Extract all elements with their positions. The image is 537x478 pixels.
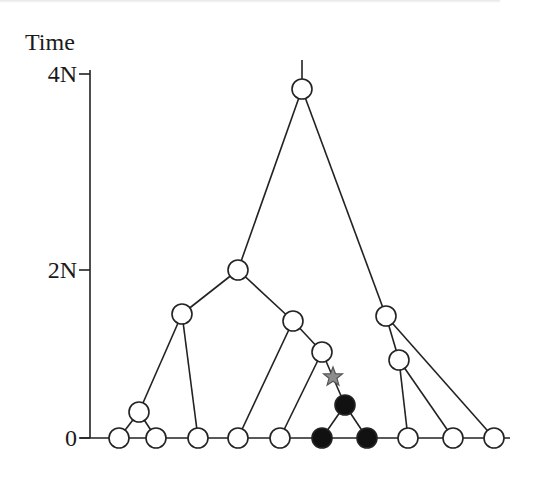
mutant-node: [357, 428, 377, 448]
lineage-node: [188, 428, 208, 448]
tree-edge: [182, 314, 198, 438]
lineage-node: [270, 428, 290, 448]
tick-label: 0: [65, 425, 77, 451]
tree-edges: [119, 60, 494, 438]
lineage-node: [389, 350, 409, 370]
lineage-node: [283, 311, 303, 331]
lineage-node: [292, 79, 312, 99]
mutation-star-icon: [324, 367, 343, 385]
lineage-node: [172, 304, 192, 324]
tree-edge: [302, 89, 386, 316]
lineage-node: [109, 428, 129, 448]
lineage-node: [443, 428, 463, 448]
lineage-node: [228, 428, 248, 448]
lineage-node: [398, 428, 418, 448]
coalescent-tree-diagram: Time 4N2N0: [0, 0, 537, 478]
mutation-star-icon: [324, 367, 343, 385]
tree-nodes: [109, 79, 504, 448]
tree-edge: [238, 89, 302, 270]
lineage-node: [146, 428, 166, 448]
mutant-node: [312, 428, 332, 448]
tree-edge: [238, 270, 293, 321]
tree-edge: [280, 352, 322, 438]
lineage-node: [312, 342, 332, 362]
lineage-node: [376, 306, 396, 326]
tick-label: 4N: [48, 61, 77, 87]
tree-edge: [139, 314, 182, 412]
lineage-node: [129, 402, 149, 422]
axis-title: Time: [25, 29, 75, 55]
lineage-node: [484, 428, 504, 448]
tick-label: 2N: [48, 257, 77, 283]
lineage-node: [228, 260, 248, 280]
time-axis: 4N2N0: [48, 61, 510, 451]
mutant-node: [335, 395, 355, 415]
tree-edge: [238, 321, 293, 438]
